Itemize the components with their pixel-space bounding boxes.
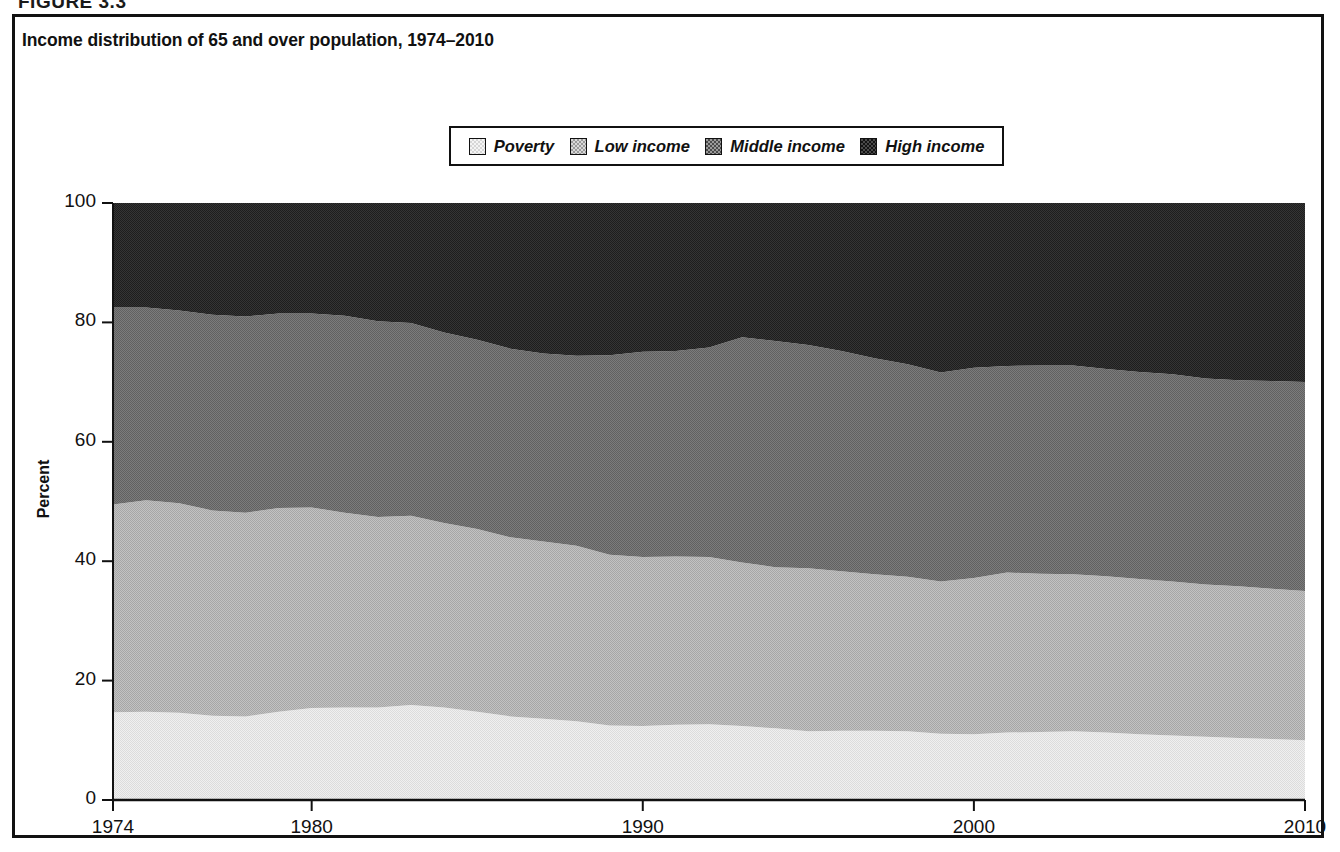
y-tick-label-0: 0 (36, 787, 96, 809)
stacked-area-chart-svg (0, 0, 1340, 852)
y-tick-label-20: 20 (36, 668, 96, 690)
area-bands (113, 203, 1305, 800)
x-tick-label-1980: 1980 (267, 816, 357, 838)
x-tick-label-2000: 2000 (929, 816, 1019, 838)
y-tick-label-60: 60 (36, 429, 96, 451)
y-tick-label-100: 100 (36, 190, 96, 212)
chart-plot-area: Percent 020406080100 1974198019902000201… (0, 0, 1340, 852)
x-tick-label-1990: 1990 (598, 816, 688, 838)
y-tick-label-40: 40 (36, 548, 96, 570)
y-tick-label-80: 80 (36, 309, 96, 331)
x-tick-label-1974: 1974 (68, 816, 158, 838)
x-tick-label-2010: 2010 (1260, 816, 1340, 838)
